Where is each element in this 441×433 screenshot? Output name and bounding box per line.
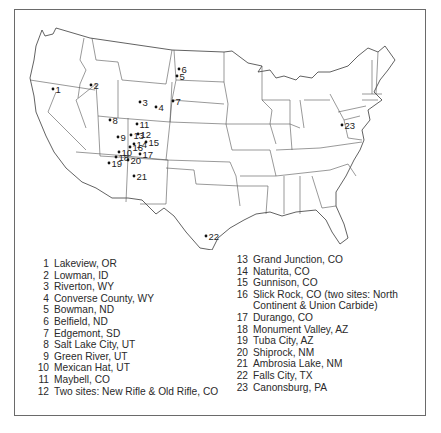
site-number-label: 7	[176, 96, 181, 107]
legend-site-name: Shiprock, NM	[253, 347, 314, 359]
legend-site-name: Durango, CO	[253, 312, 313, 324]
site-dot	[52, 88, 55, 91]
legend-site-name: Edgemont, SD	[54, 328, 120, 340]
site-dot	[176, 75, 179, 78]
site-marker: 3	[139, 97, 148, 108]
legend-number: 23	[232, 382, 248, 394]
legend-entry: 20Shiprock, NM	[232, 347, 398, 359]
site-number-label: 1	[56, 84, 61, 95]
site-number-label: 21	[137, 171, 148, 182]
legend-number: 16	[232, 289, 248, 301]
site-dot	[155, 106, 158, 109]
legend-site-name: Mexican Hat, UT	[54, 362, 130, 374]
legend-site-name: Tuba City, AZ	[253, 335, 314, 347]
legend-number: 21	[232, 358, 248, 370]
legend-entry: 18Monument Valley, AZ	[232, 324, 398, 336]
legend-entry: 15Gunnison, CO	[232, 277, 398, 289]
legend-number: 11	[33, 374, 49, 386]
legend-number: 17	[232, 312, 248, 324]
legend-number: 10	[33, 362, 49, 374]
us-outline	[30, 28, 395, 250]
site-dot	[136, 123, 139, 126]
legend-entry: 11Maybell, CO	[33, 374, 218, 386]
legend-site-name: Salt Lake City, UT	[54, 339, 135, 351]
legend-number: 6	[33, 316, 49, 328]
legend-entry: 5Bowman, ND	[33, 304, 218, 316]
legend-site-name-continued: Continent & Union Carbide)	[232, 300, 398, 312]
site-dot	[178, 68, 181, 71]
legend-number: 4	[33, 293, 49, 305]
legend-number: 7	[33, 328, 49, 340]
legend-entry: 14Naturita, CO	[232, 266, 398, 278]
site-dot	[145, 141, 148, 144]
legend-entry: 10Mexican Hat, UT	[33, 362, 218, 374]
legend-site-name: Lowman, ID	[54, 270, 108, 282]
site-dot	[127, 159, 130, 162]
site-number-label: 6	[182, 64, 187, 75]
site-marker: 22	[205, 231, 219, 242]
legend-site-name: Falls City, TX	[253, 370, 313, 382]
site-number-label: 4	[159, 102, 164, 113]
site-dot	[130, 134, 133, 137]
site-marker: 7	[172, 96, 181, 107]
us-map: 1234567891011121314151617181920212223	[0, 0, 441, 250]
legend-right-column: 13Grand Junction, CO14Naturita, CO15Gunn…	[232, 254, 398, 393]
legend-entry: 3Riverton, WY	[33, 281, 218, 293]
legend-number: 19	[232, 335, 248, 347]
site-number-label: 23	[345, 120, 356, 131]
site-marker: 9	[117, 132, 126, 143]
legend-number: 2	[33, 270, 49, 282]
legend-number: 3	[33, 281, 49, 293]
legend-entry: 12Two sites: New Rifle & Old Rifle, CO	[33, 386, 218, 398]
site-marker: 21	[133, 171, 147, 182]
legend-site-name: Maybell, CO	[54, 374, 110, 386]
site-number-label: 15	[149, 137, 160, 148]
legend-site-name: Monument Valley, AZ	[253, 324, 348, 336]
legend-entry: 17Durango, CO	[232, 312, 398, 324]
legend-site-name: Gunnison, CO	[253, 277, 318, 289]
site-dot	[117, 136, 120, 139]
site-marker: 23	[341, 120, 355, 131]
legend-entry: 22Falls City, TX	[232, 370, 398, 382]
legend-site-name: Bowman, ND	[54, 304, 114, 316]
state-borders	[30, 38, 382, 214]
site-number-label: 20	[131, 155, 142, 166]
legend-number: 1	[33, 258, 49, 270]
legend-entry: 19Tuba City, AZ	[232, 335, 398, 347]
legend-number: 13	[232, 254, 248, 266]
site-dot	[109, 119, 112, 122]
site-dot	[133, 175, 136, 178]
legend-entry: 16Slick Rock, CO (two sites: North	[232, 289, 398, 301]
site-markers: 1234567891011121314151617181920212223	[52, 64, 355, 242]
site-dot	[341, 124, 344, 127]
site-number-label: 9	[121, 132, 126, 143]
site-dot	[108, 162, 111, 165]
legend-number: 18	[232, 324, 248, 336]
legend-entry: 13Grand Junction, CO	[232, 254, 398, 266]
site-number-label: 3	[143, 97, 148, 108]
site-dot	[139, 101, 142, 104]
site-marker: 2	[90, 80, 99, 91]
site-dot	[172, 100, 175, 103]
site-marker: 1	[52, 84, 61, 95]
legend-entry: 6Belfield, ND	[33, 316, 218, 328]
legend-site-name: Grand Junction, CO	[253, 254, 343, 266]
legend-number: 12	[33, 386, 49, 398]
site-number-label: 22	[209, 231, 220, 242]
legend-number: 5	[33, 304, 49, 316]
site-number-label: 16	[133, 142, 144, 153]
site-dot	[205, 235, 208, 238]
legend-site-name: Ambrosia Lake, NM	[253, 358, 342, 370]
legend-number: 15	[232, 277, 248, 289]
legend-site-name: Lakeview, OR	[54, 258, 117, 270]
legend-entry: 9Green River, UT	[33, 351, 218, 363]
site-marker: 19	[108, 158, 122, 169]
legend-number: 20	[232, 347, 248, 359]
site-marker: 4	[155, 102, 164, 113]
legend-left-column: 1Lakeview, OR2Lowman, ID3Riverton, WY4Co…	[33, 258, 218, 397]
site-marker: 8	[109, 115, 118, 126]
legend-site-name: Two sites: New Rifle & Old Rifle, CO	[54, 386, 218, 398]
legend-entry: 2Lowman, ID	[33, 270, 218, 282]
legend-number: 22	[232, 370, 248, 382]
site-dot	[129, 146, 132, 149]
